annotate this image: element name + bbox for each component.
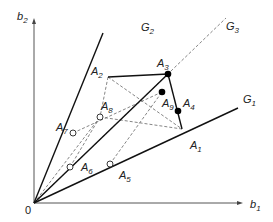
label-a1: A1 [189,139,202,154]
label-a5: A5 [118,169,131,184]
label-y-axis: b2 [17,10,28,25]
point-a6 [67,164,73,170]
label-origin: 0 [25,204,31,216]
point-a4 [175,108,182,115]
point-a8 [97,114,103,120]
x-axis-arrow-icon [237,201,243,205]
label-g1: G1 [243,93,256,108]
label-a6: A6 [80,161,93,176]
point-a7 [70,130,76,136]
solid-rays [34,33,238,203]
axes [32,18,243,205]
edge-a2-a3 [108,74,168,77]
label-a4: A4 [182,97,195,112]
geometric-diagram: b2 b1 0 G2 G3 G1 A2 A3 A9 A4 A1 A8 A7 A6… [0,0,273,222]
label-a9: A9 [161,97,174,112]
label-g2: G2 [141,21,155,36]
point-a9 [159,89,166,96]
dash-a7-a9 [73,92,162,133]
label-a3: A3 [156,57,169,72]
ray-g2 [34,33,103,203]
label-a2: A2 [90,65,103,80]
y-axis-arrow-icon [32,18,36,24]
label-a8: A8 [100,100,113,115]
dash-a5-a9 [110,92,162,164]
ray-o-a3 [34,74,168,203]
point-a5 [107,161,113,167]
label-x-axis: b1 [250,198,261,213]
label-g3: G3 [226,20,240,35]
dash-a6-a8 [70,117,100,167]
